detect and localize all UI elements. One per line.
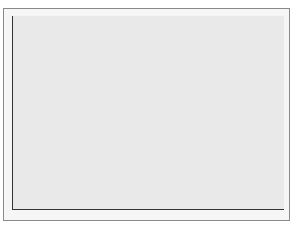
range-chart bbox=[0, 0, 295, 226]
